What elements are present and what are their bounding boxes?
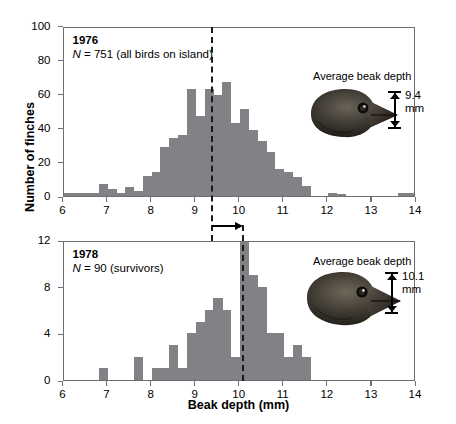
histogram-bar: [213, 95, 222, 196]
histogram-bar: [222, 310, 231, 380]
y-axis-tick: [58, 128, 63, 129]
panel-sample-size-1978: N = 90 (survivors): [73, 262, 164, 274]
x-axis-tick-label: 11: [268, 204, 298, 216]
histogram-bar: [99, 368, 108, 380]
histogram-bar: [293, 345, 302, 380]
x-axis-tick-label: 9: [180, 204, 210, 216]
histogram-bar: [152, 172, 161, 196]
histogram-bar: [337, 194, 346, 196]
x-axis-tick: [62, 197, 63, 202]
caliper-bottom-cap: [388, 127, 401, 129]
beak-depth-caliper-1976: 9.4 mm: [388, 91, 448, 129]
y-axis-tick: [58, 241, 63, 242]
x-axis-tick-label: 10: [224, 388, 254, 400]
beak-depth-unit-1978: mm: [402, 283, 421, 296]
average-beak-depth-label-1976: Average beak depth: [313, 70, 411, 82]
y-axis-tick: [58, 94, 63, 95]
histogram-bar: [275, 169, 284, 196]
y-axis-tick: [58, 60, 63, 61]
histogram-bar: [196, 116, 205, 196]
x-axis-tick: [62, 381, 63, 386]
y-axis-tick: [58, 26, 63, 27]
histogram-bar: [81, 193, 90, 196]
histogram-bar: [169, 345, 178, 380]
histogram-bar: [293, 177, 302, 196]
beak-depth-caliper-1978: 10.1 mm: [385, 272, 445, 314]
y-axis-tick-label: 40: [11, 122, 51, 134]
x-axis-tick: [106, 381, 107, 386]
x-axis-tick: [238, 197, 239, 202]
finch-beak-depth-figure: Number of finches Beak depth (mm) 020406…: [0, 0, 456, 424]
x-axis-tick: [194, 197, 195, 202]
histogram-bar: [301, 357, 310, 380]
histogram-bar: [266, 333, 275, 380]
x-axis-tick: [150, 197, 151, 202]
caliper-arrow-up: [390, 93, 400, 99]
histogram-bar: [125, 187, 134, 196]
panel-year-1978: 1978: [73, 248, 99, 260]
caliper-bottom-cap: [385, 312, 398, 314]
histogram-bar: [196, 322, 205, 380]
histogram-bar: [108, 189, 117, 196]
x-axis-tick-label: 13: [356, 204, 386, 216]
x-axis-tick-label: 12: [312, 388, 342, 400]
histogram-bar: [72, 193, 81, 196]
y-axis-tick-label: 80: [11, 54, 51, 66]
y-axis-tick-label: 60: [11, 88, 51, 100]
mean-shift-arrow: [212, 222, 243, 231]
caliper-arrow-up: [387, 274, 397, 280]
histogram-bar: [398, 193, 407, 196]
x-axis-tick: [150, 381, 151, 386]
x-axis-tick-label: 9: [180, 388, 210, 400]
x-axis-tick: [238, 381, 239, 386]
n-symbol: N: [73, 262, 81, 274]
histogram-bar: [187, 89, 196, 196]
x-axis-tick: [415, 197, 416, 202]
x-axis-tick: [370, 197, 371, 202]
histogram-bar: [205, 310, 214, 380]
histogram-bar: [284, 172, 293, 196]
x-axis-tick: [282, 381, 283, 386]
y-axis-tick-label: 4: [11, 327, 51, 339]
x-axis-tick: [326, 197, 327, 202]
x-axis-tick-label: 7: [92, 204, 122, 216]
histogram-bar: [301, 186, 310, 196]
x-axis-tick-label: 13: [356, 388, 386, 400]
arrow-shaft: [212, 225, 236, 227]
histogram-bar: [99, 184, 108, 196]
y-axis-tick-label: 20: [11, 156, 51, 168]
y-axis-tick-label: 12: [11, 234, 51, 246]
y-axis-tick-label: 0: [11, 374, 51, 386]
y-axis-tick: [58, 287, 63, 288]
histogram-bar: [275, 333, 284, 380]
x-axis-tick: [370, 381, 371, 386]
histogram-bar: [178, 368, 187, 380]
y-axis-tick-label: 8: [11, 281, 51, 293]
histogram-bar: [231, 123, 240, 196]
y-axis-tick-label: 100: [11, 20, 51, 32]
beak-depth-value-1978: 10.1: [402, 270, 424, 283]
histogram-bar: [143, 176, 152, 196]
histogram-bar: [257, 141, 266, 196]
histogram-bar: [160, 147, 169, 196]
histogram-bar: [266, 152, 275, 196]
panel-year-1976: 1976: [73, 34, 99, 46]
x-axis-tick-label: 8: [136, 204, 166, 216]
x-axis-tick-label: 12: [312, 204, 342, 216]
histogram-bar: [213, 298, 222, 380]
histogram-bar: [178, 135, 187, 196]
x-axis-tick-label: 14: [400, 204, 430, 216]
histogram-bar: [116, 193, 125, 196]
panel-sample-size-1976: N = 751 (all birds on island): [73, 48, 213, 60]
histogram-bar: [187, 333, 196, 380]
mean-beak-depth-line: [242, 225, 244, 381]
histogram-bar: [249, 130, 258, 196]
beak-depth-value-1976: 9.4: [405, 89, 421, 102]
histogram-bar: [134, 357, 143, 380]
histogram-bar: [64, 193, 73, 196]
histogram-bar: [257, 287, 266, 380]
x-axis-tick-label: 10: [224, 204, 254, 216]
histogram-bar: [328, 193, 337, 196]
x-axis-tick: [326, 381, 327, 386]
x-axis-tick-label: 6: [48, 204, 78, 216]
